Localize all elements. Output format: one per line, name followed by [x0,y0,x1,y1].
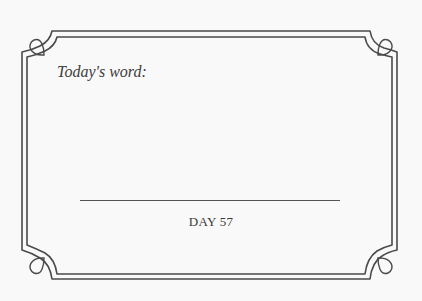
decorative-frame [0,0,422,301]
leaf-ornament-top-right [378,39,392,55]
answer-line [80,200,340,201]
day-label: DAY 57 [0,214,422,230]
prompt-label: Today's word: [57,63,147,81]
leaf-ornament-bottom-right [378,258,392,274]
